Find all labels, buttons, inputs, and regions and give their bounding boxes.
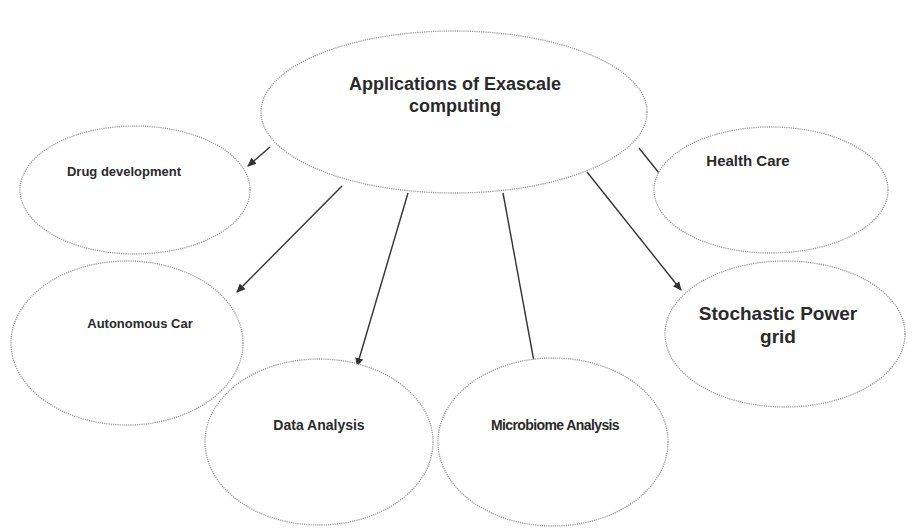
node-car-label: Autonomous Car (87, 316, 192, 332)
edge-root-drug (248, 147, 270, 166)
node-data-label: Data Analysis (273, 417, 364, 434)
node-drug-ellipse (20, 126, 250, 254)
node-health-ellipse (654, 127, 888, 253)
node-micro-ellipse (438, 358, 668, 526)
node-car-ellipse (11, 261, 243, 425)
edge-root-data (357, 193, 408, 366)
edge-root-car (237, 186, 342, 292)
power-label-line2: grid (699, 326, 857, 349)
node-data-ellipse (205, 359, 433, 525)
root-label-line1: Applications of Exascale (349, 74, 561, 96)
edge-root-micro (503, 193, 535, 367)
node-power-label: Stochastic Power grid (699, 303, 857, 349)
root-label-line2: computing (349, 96, 561, 118)
node-health-label: Health Care (706, 152, 789, 170)
power-label-line1: Stochastic Power (699, 303, 857, 326)
node-root-label: Applications of Exascale computing (349, 74, 561, 117)
node-drug-label: Drug development (67, 164, 181, 180)
node-micro-label: Microbiome Analysis (491, 417, 619, 434)
